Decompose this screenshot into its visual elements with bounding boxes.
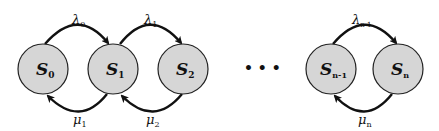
state-s0: S0: [18, 44, 68, 94]
state-diagram: S0 S1 S2 Sn-1 Sn • • • λ0 λ1 λn-1 μ1 μ2 …: [0, 0, 439, 131]
state-sn: Sn: [373, 44, 423, 94]
arc-lambda-0: [45, 25, 108, 44]
label-lambda-0: λ0: [71, 12, 85, 29]
arc-lambda-1: [120, 25, 181, 44]
arc-mu-n: [335, 94, 392, 112]
label-lambda-1: λ1: [143, 12, 157, 29]
arc-mu-1: [48, 94, 107, 112]
arc-mu-2: [122, 94, 182, 112]
ellipsis: • • •: [244, 60, 281, 76]
label-lambda-n-1: λn-1: [351, 12, 372, 29]
state-sn-1: Sn-1: [306, 44, 356, 94]
label-mu-2: μ2: [146, 112, 160, 129]
state-s1: S1: [88, 44, 138, 94]
label-mu-1: μ1: [73, 112, 87, 129]
label-mu-n: μn: [358, 112, 372, 129]
state-s2: S2: [158, 44, 208, 94]
